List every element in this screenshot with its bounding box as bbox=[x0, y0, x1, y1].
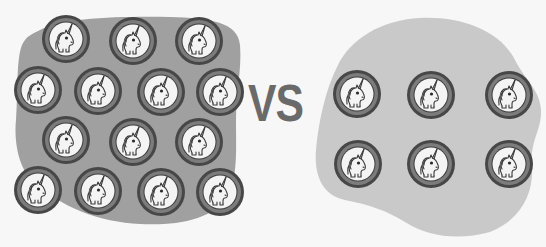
unicorn-coin-icon bbox=[14, 66, 62, 114]
unicorn-coin-icon bbox=[407, 140, 455, 188]
unicorn-coin-icon bbox=[485, 71, 533, 119]
unicorn-coin-icon bbox=[42, 116, 90, 164]
unicorn-coin-icon bbox=[334, 140, 382, 188]
unicorn-coin-icon bbox=[333, 70, 381, 118]
unicorn-coin-icon bbox=[109, 118, 157, 166]
unicorn-coin-icon bbox=[14, 166, 62, 214]
unicorn-coin-icon bbox=[137, 68, 185, 116]
unicorn-coin-icon bbox=[175, 17, 223, 65]
unicorn-coin-icon bbox=[74, 67, 122, 115]
right-blob bbox=[316, 18, 541, 237]
unicorn-coin-icon bbox=[196, 168, 244, 216]
unicorn-coin-icon bbox=[196, 68, 244, 116]
vs-label: VS bbox=[248, 73, 303, 133]
unicorn-coin-icon bbox=[42, 15, 90, 63]
unicorn-coin-icon bbox=[175, 118, 223, 166]
unicorn-coin-icon bbox=[407, 71, 455, 119]
unicorn-coin-icon bbox=[485, 140, 533, 188]
unicorn-coin-icon bbox=[74, 167, 122, 215]
unicorn-coin-icon bbox=[137, 168, 185, 216]
unicorn-coin-icon bbox=[109, 17, 157, 65]
